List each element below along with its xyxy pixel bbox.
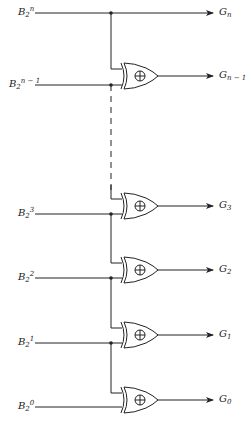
input-label-bn-1: B2n − 1: [9, 78, 40, 91]
circuit-diagram: [0, 0, 246, 426]
xor-gate-0: [121, 387, 158, 413]
output-label-gn: Gn: [219, 7, 232, 19]
output-label-gn-1: Gn − 1: [219, 70, 246, 82]
output-label-g1: G1: [219, 329, 231, 341]
output-label-g2: G2: [219, 264, 231, 276]
xor-gate-2: [121, 257, 158, 283]
input-label-bn: B2n: [18, 6, 34, 19]
wire-bn-to-gate-n1: [111, 13, 122, 69]
output-label-g3: G3: [219, 200, 231, 212]
input-label-b2: B22: [18, 271, 34, 284]
xor-gate-1: [121, 322, 158, 348]
input-label-b0: B20: [18, 400, 34, 413]
xor-gate-3: [121, 193, 158, 219]
input-label-b1: B21: [18, 336, 34, 349]
input-label-b3: B23: [18, 207, 34, 220]
xor-gate-n-1: [121, 63, 158, 89]
output-label-g0: G0: [219, 394, 231, 406]
